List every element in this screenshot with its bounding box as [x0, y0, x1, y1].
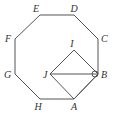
label-j: J — [43, 69, 48, 80]
octagon-diagram: A B C D E F G H I J — [0, 0, 117, 115]
label-d: D — [69, 3, 78, 14]
label-g: G — [4, 69, 11, 80]
label-f: F — [4, 33, 12, 44]
label-b: B — [101, 69, 107, 80]
label-a: A — [70, 101, 78, 112]
label-c: C — [101, 33, 108, 44]
label-h: H — [33, 101, 42, 112]
label-i: I — [69, 38, 74, 49]
label-e: E — [32, 3, 39, 14]
